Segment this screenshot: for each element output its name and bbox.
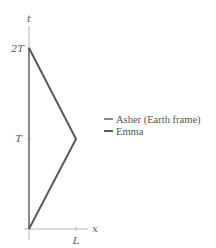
y-tick-label-2T: 2T	[10, 43, 25, 54]
x-tick-label-L: L	[72, 235, 80, 246]
y-tick-label-T: T	[15, 133, 23, 144]
spacetime-chart: t x L T 2T Asher (Earth frame) Emma	[0, 0, 216, 248]
legend: Asher (Earth frame) Emma	[104, 114, 201, 137]
legend-label-emma: Emma	[116, 126, 144, 137]
series-emma-line	[29, 48, 76, 229]
x-axis-label: x	[92, 223, 98, 234]
y-axis-label: t	[27, 13, 32, 24]
legend-label-asher: Asher (Earth frame)	[116, 114, 201, 126]
